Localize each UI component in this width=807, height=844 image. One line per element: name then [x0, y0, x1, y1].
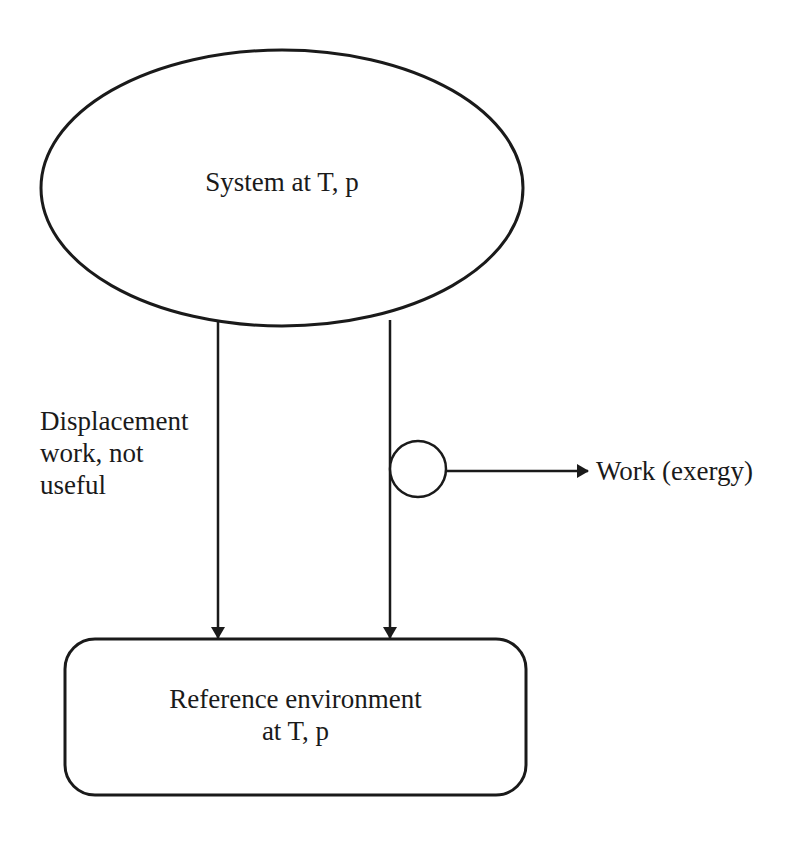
displacement-label-line-3: useful	[40, 469, 188, 501]
displacement-label-line-2: work, not	[40, 437, 188, 469]
diagram-canvas: System at T, p Displacement work, not us…	[0, 0, 807, 844]
displacement-label: Displacement work, not useful	[40, 405, 188, 501]
environment-label-line-1: Reference environment	[65, 683, 526, 715]
system-label: System at T, p	[182, 166, 382, 198]
environment-label: Reference environment at T, p	[65, 683, 526, 747]
work-exergy-label: Work (exergy)	[596, 455, 753, 487]
work-device-circle	[390, 441, 446, 497]
environment-label-line-2: at T, p	[65, 715, 526, 747]
displacement-label-line-1: Displacement	[40, 405, 188, 437]
